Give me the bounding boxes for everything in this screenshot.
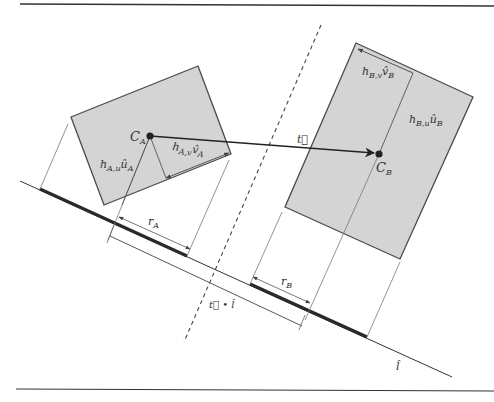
projection-bar-b: [250, 284, 367, 337]
projection-label: t⃗ • l̂: [209, 299, 236, 310]
radius-b-label: rB: [281, 275, 292, 290]
center-b-dot: [375, 150, 382, 157]
top-rule: [20, 4, 494, 6]
proj-line-b-left: [250, 212, 282, 284]
projection-dimension-tick-left: [107, 225, 114, 243]
projection-dimension-tick-right: [299, 315, 305, 330]
proj-line-b-right: [367, 262, 400, 337]
translation-label: t⃗: [297, 133, 308, 146]
bottom-rule: [16, 389, 494, 391]
proj-line-a-left: [40, 124, 68, 189]
projection-dimension-line: [110, 236, 302, 326]
center-a-dot: [146, 132, 153, 139]
obb-separating-axis-diagram: CA CB hA,uûA hA,vv̂A hB,vv̂B hB,uûB t⃗ r…: [0, 0, 494, 402]
axis-label: l̂: [396, 360, 401, 373]
proj-line-a-right: [187, 160, 229, 256]
radius-a-label: rA: [148, 215, 159, 230]
